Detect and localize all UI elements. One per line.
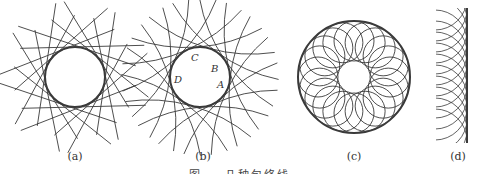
panel-b-label: (b)	[195, 150, 211, 163]
point-label-b: B	[211, 63, 218, 74]
point-label-d: D	[174, 74, 182, 85]
panel-a-label: (a)	[67, 150, 82, 163]
point-label-a: A	[217, 79, 224, 90]
figure-caption: 图 … 几种包络线	[0, 166, 479, 174]
panel-c-circle-envelope	[298, 21, 410, 133]
panel-a-tangent-lines	[0, 2, 148, 153]
panel-b-tangent-arcs	[121, 0, 278, 156]
panel-c-label: (c)	[347, 150, 362, 163]
figure-canvas	[0, 0, 479, 174]
panel-d-line-envelope	[403, 0, 467, 173]
point-label-c: C	[191, 52, 199, 63]
panel-d-label: (d)	[450, 150, 466, 163]
